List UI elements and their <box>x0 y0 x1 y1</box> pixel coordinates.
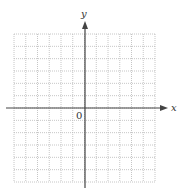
origin-label: 0 <box>76 110 82 121</box>
coordinate-plane: x y 0 <box>0 0 179 188</box>
y-axis-label: y <box>80 8 87 19</box>
x-axis-label: x <box>171 102 177 113</box>
y-axis-arrow-icon <box>82 21 88 29</box>
x-axis-arrow-icon <box>160 105 168 111</box>
